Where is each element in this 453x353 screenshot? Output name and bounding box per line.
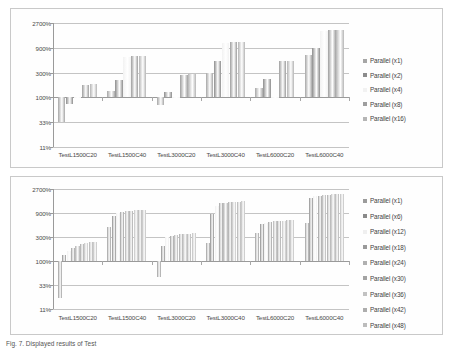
bar [271,97,279,98]
bar [90,84,98,97]
bar [222,43,230,97]
bar [142,210,146,261]
legend-item[interactable]: Parallel (x30) [363,275,406,282]
y-tick-label: 100% [36,94,51,101]
x-tick-mark [349,261,350,265]
x-axis-label: TestL1500C40 [102,314,151,321]
bar [58,261,62,298]
legend-item[interactable]: Parallel (x16) [363,115,406,122]
plot-area-bottom [53,189,349,309]
bar [123,57,131,97]
x-axis-label: TestL3000C40 [201,314,250,321]
legend-item[interactable]: Parallel (x6) [363,213,406,220]
gridline [53,23,349,24]
y-tick-label: 2700% [32,20,51,27]
bar [131,56,139,97]
legend-item[interactable]: Parallel (x12) [363,228,406,235]
x-tick-mark [250,261,251,265]
legend-item[interactable]: Parallel (x4) [363,86,406,93]
legend-label: Parallel (x16) [370,115,406,122]
legend-swatch-icon [363,73,367,77]
bar [279,61,287,97]
y-axis-line [53,23,54,147]
bar [172,97,180,98]
legend-item[interactable]: Parallel (x1) [363,197,406,204]
y-tick-label: 300% [36,233,51,240]
legend-item[interactable]: Parallel (x8) [363,101,406,108]
bar [340,194,344,261]
legend-item[interactable]: Parallel (x36) [363,291,406,298]
legend-swatch-icon [363,59,367,63]
legend-top: Parallel (x1)Parallel (x2)Parallel (x4)P… [363,57,406,122]
legend-swatch-icon [363,245,367,249]
legend-swatch-icon [363,88,367,92]
legend-label: Parallel (x1) [370,57,402,64]
bar [66,97,74,103]
legend-item[interactable]: Parallel (x24) [363,259,406,266]
y-axis-bottom: 11%33%100%300%900%2700% [15,177,51,334]
x-tick-mark [201,97,202,101]
bar [230,42,238,97]
y-tick-mark [50,147,53,148]
legend-label: Parallel (x18) [370,244,406,251]
bar [241,201,245,260]
bar [58,97,66,122]
legend-swatch-icon [363,323,367,327]
bar [82,85,90,98]
legend-bottom: Parallel (x1)Parallel (x6)Parallel (x12)… [363,197,406,329]
y-tick-label: 100% [36,257,51,264]
legend-label: Parallel (x36) [370,291,406,298]
bar [157,261,161,277]
legend-label: Parallel (x6) [370,213,402,220]
legend-item[interactable]: Parallel (x2) [363,72,406,79]
gridline [53,213,349,214]
legend-label: Parallel (x42) [370,306,406,313]
plot-wrap-bottom: 11%33%100%300%900%2700% TestL1500C20Test… [11,177,442,334]
figure-root: 11%33%100%300%900%2700% TestL1500C20Test… [0,0,453,353]
y-tick-label: 2700% [32,186,51,193]
x-axis-label: TestL1500C40 [102,151,151,158]
x-axis-label: TestL6000C20 [250,151,299,158]
legend-label: Parallel (x48) [370,322,406,329]
figure-caption: Fig. 7. Displayed results of Test [6,340,96,347]
bar [206,73,214,97]
bar [157,97,165,105]
x-tick-mark [102,261,103,265]
bar [188,74,196,97]
legend-item[interactable]: Parallel (x42) [363,306,406,313]
x-tick-mark [152,261,153,265]
legend-label: Parallel (x4) [370,86,402,93]
x-axis-label: TestL3000C20 [152,314,201,321]
bar [180,75,188,97]
legend-item[interactable]: Parallel (x18) [363,244,406,251]
x-tick-mark [300,97,301,101]
legend-label: Parallel (x1) [370,197,402,204]
legend-swatch-icon [363,214,367,218]
x-axis-label: TestL6000C40 [300,314,349,321]
gridline [53,309,349,310]
legend-item[interactable]: Parallel (x48) [363,322,406,329]
bar [290,220,294,261]
x-axis-label: TestL3000C40 [201,151,250,158]
legend-label: Parallel (x8) [370,101,402,108]
x-tick-mark [102,97,103,101]
y-tick-label: 300% [36,69,51,76]
bar [328,30,336,97]
bar [214,61,222,97]
x-tick-mark [152,97,153,101]
y-tick-mark [50,309,53,310]
gridline [53,122,349,123]
legend-item[interactable]: Parallel (x1) [363,57,406,64]
legend-label: Parallel (x30) [370,275,406,282]
x-tick-mark [201,261,202,265]
bar [312,48,320,98]
legend-swatch-icon [363,276,367,280]
plot-area-top [53,23,349,147]
legend-swatch-icon [363,230,367,234]
y-axis-top: 11%33%100%300%900%2700% [15,9,51,167]
bar [263,79,271,97]
y-tick-label: 900% [36,209,51,216]
x-axis-label: TestL6000C40 [300,151,349,158]
gridline [53,285,349,286]
legend-swatch-icon [363,292,367,296]
